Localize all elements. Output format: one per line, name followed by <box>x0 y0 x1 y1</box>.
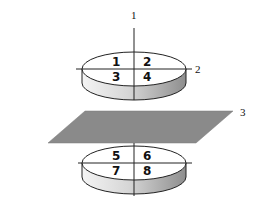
diagram-canvas: 1 1 2 3 4 2 3 5 6 7 8 <box>0 0 262 212</box>
axis-2-label: 2 <box>195 63 201 75</box>
quadrant-2: 2 <box>143 55 151 69</box>
bottom-disk: 5 6 7 8 <box>78 146 192 196</box>
quadrant-6: 6 <box>143 149 151 163</box>
plane-3 <box>48 111 233 143</box>
quadrant-5: 5 <box>112 149 120 163</box>
quadrant-8: 8 <box>143 164 151 178</box>
quadrant-7: 7 <box>112 164 120 178</box>
diagram-svg: 1 1 2 3 4 2 3 5 6 7 8 <box>0 0 262 212</box>
quadrant-1: 1 <box>112 55 120 69</box>
axis-1-label: 1 <box>131 9 137 21</box>
top-disk: 1 2 3 4 <box>76 52 192 100</box>
quadrant-3: 3 <box>112 70 120 84</box>
quadrant-4: 4 <box>143 70 151 84</box>
plane-3-label: 3 <box>240 106 246 118</box>
